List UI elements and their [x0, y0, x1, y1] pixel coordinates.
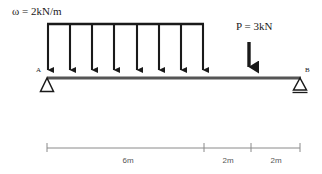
distributed-load-label: ω = 2kN/m: [12, 5, 62, 17]
pin-support-triangle: [41, 78, 54, 92]
dimension-label-span-1: 6m: [122, 156, 133, 165]
beam-diagram-svg: ω = 2kN/m P = 3kN A B: [0, 0, 322, 174]
dimension-line: 6m 2m 2m: [47, 143, 300, 165]
point-load-label: P = 3kN: [236, 20, 272, 32]
dimension-label-span-2: 2m: [222, 156, 233, 165]
support-a-label: A: [36, 66, 41, 74]
beam-diagram-canvas: ω = 2kN/m P = 3kN A B: [0, 0, 322, 174]
roller-support-triangle: [294, 78, 307, 90]
distributed-load-arrows: [48, 24, 203, 70]
support-b-label: B: [305, 66, 310, 74]
dimension-label-span-3: 2m: [270, 156, 281, 165]
